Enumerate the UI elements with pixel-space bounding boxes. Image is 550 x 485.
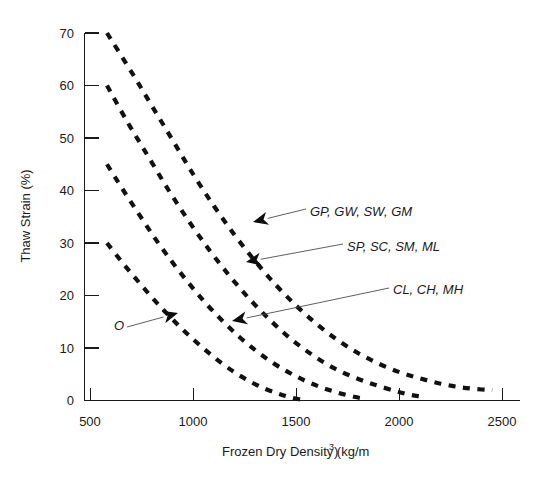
y-tick-label-0: 0 bbox=[67, 393, 74, 408]
chart-canvas: 0 10 20 30 40 50 60 70 500 1000 1500 200… bbox=[0, 0, 550, 485]
y-tick-label-50: 50 bbox=[60, 131, 74, 146]
thaw-strain-chart-figure: 0 10 20 30 40 50 60 70 500 1000 1500 200… bbox=[0, 0, 550, 485]
leader-line bbox=[247, 288, 389, 318]
annotation-leaders bbox=[127, 209, 389, 327]
leader-sp-sc-sm-ml bbox=[246, 244, 343, 266]
leader-line bbox=[268, 209, 306, 218]
y-tick-label-10: 10 bbox=[60, 341, 74, 356]
series-label-cl-ch-mh: CL, CH, MH bbox=[393, 282, 464, 297]
leader-line bbox=[127, 317, 164, 327]
y-tick-label-40: 40 bbox=[60, 183, 74, 198]
x-tick-label-500: 500 bbox=[79, 414, 101, 429]
y-axis-tick-labels: 0 10 20 30 40 50 60 70 bbox=[60, 26, 74, 408]
x-tick-label-2000: 2000 bbox=[385, 414, 414, 429]
leader-gp-gw-sw-gm bbox=[253, 209, 306, 225]
y-tick-label-30: 30 bbox=[60, 236, 74, 251]
x-tick-label-1500: 1500 bbox=[282, 414, 311, 429]
curve-gp-gw-sw-gm bbox=[107, 33, 492, 390]
arrow-head-icon bbox=[253, 212, 269, 225]
series-label-gp-gw-sw-gm: GP, GW, SW, GM bbox=[310, 204, 412, 219]
arrow-head-icon bbox=[232, 312, 248, 325]
x-tick-label-2500: 2500 bbox=[488, 414, 517, 429]
x-tick-label-1000: 1000 bbox=[179, 414, 208, 429]
data-curves bbox=[107, 33, 492, 399]
leader-o bbox=[127, 311, 178, 327]
y-axis-ticks bbox=[85, 33, 100, 401]
y-tick-label-70: 70 bbox=[60, 26, 74, 41]
series-label-sp-sc-sm-ml: SP, SC, SM, ML bbox=[347, 239, 440, 254]
y-tick-label-20: 20 bbox=[60, 288, 74, 303]
series-label-o: O bbox=[114, 318, 124, 333]
leader-line bbox=[261, 244, 343, 259]
y-axis-title: Thaw Strain (%) bbox=[18, 169, 33, 262]
y-tick-label-60: 60 bbox=[60, 78, 74, 93]
curve-o bbox=[107, 243, 301, 399]
axes-spines bbox=[85, 33, 521, 401]
x-axis-tick-labels: 500 1000 1500 2000 2500 bbox=[79, 414, 516, 429]
x-axis-title-closing-paren: ) bbox=[334, 444, 338, 459]
x-axis-title: Frozen Dry Density (kg/m bbox=[222, 444, 369, 459]
